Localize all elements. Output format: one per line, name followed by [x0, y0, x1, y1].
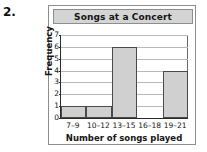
x-axis-tick-label: 10–12 [86, 121, 112, 130]
x-axis-tick-label: 13–15 [111, 121, 137, 130]
bar-slot [61, 35, 86, 118]
bar [163, 71, 188, 118]
bar [112, 47, 137, 118]
x-axis-title: Number of songs played [60, 133, 188, 143]
question-number: 2. [3, 5, 16, 19]
chart-title: Songs at a Concert [74, 12, 172, 22]
bar-series [61, 35, 188, 118]
bar [61, 106, 86, 118]
bar [86, 106, 111, 118]
x-axis-tick-labels: 7–910–1213–1516–1819–21 [60, 121, 188, 130]
chart-title-band: Songs at a Concert [53, 9, 193, 24]
worksheet-item: 2. Songs at a Concert Frequency 01234567… [0, 0, 207, 152]
x-axis-tick-label: 19–21 [162, 121, 188, 130]
y-axis-tick-mark [59, 118, 62, 119]
bar-slot [163, 35, 188, 118]
x-axis-tick-label: 16–18 [137, 121, 163, 130]
chart-card: Songs at a Concert Frequency 01234567 7–… [48, 5, 196, 145]
bar-slot [112, 35, 137, 118]
plot-area: 01234567 [60, 35, 188, 119]
histogram-chart: Frequency 01234567 7–910–1213–1516–1819–… [49, 27, 195, 145]
bar-slot [86, 35, 111, 118]
bar-slot [137, 35, 162, 118]
x-axis-tick-label: 7–9 [60, 121, 86, 130]
